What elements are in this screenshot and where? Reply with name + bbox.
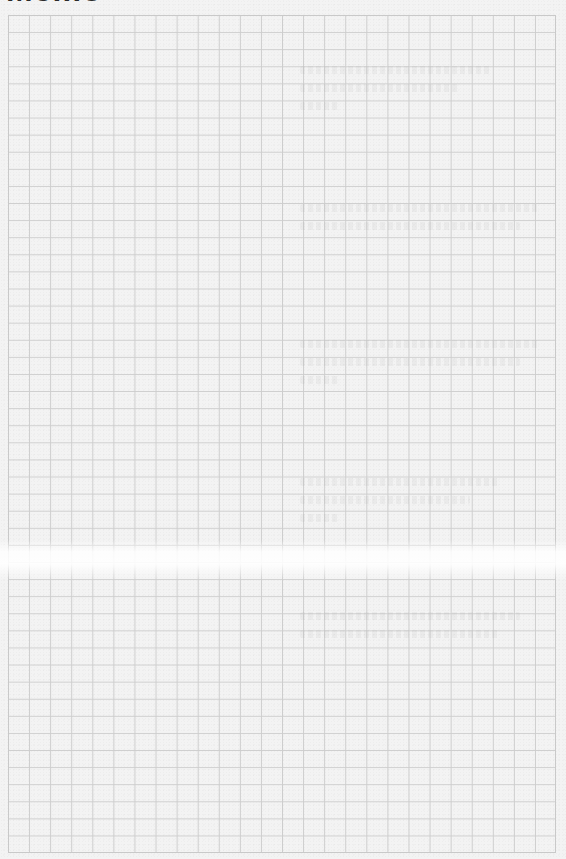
bleed-through-mark	[300, 358, 520, 366]
memo-page: Memo	[0, 0, 566, 859]
bleed-through-mark	[300, 204, 540, 212]
bleed-through-mark	[300, 478, 500, 486]
bleed-through-mark	[300, 630, 500, 638]
memo-title: Memo	[6, 0, 102, 6]
bleed-through-mark	[300, 612, 520, 620]
bleed-through-mark	[300, 514, 340, 522]
bleed-through-mark	[300, 222, 520, 230]
bleed-through-mark	[300, 84, 460, 92]
bleed-through-mark	[300, 66, 490, 74]
bleed-through-mark	[300, 496, 470, 504]
grid-paper	[8, 15, 556, 853]
bleed-through-mark	[300, 376, 340, 384]
bleed-through-mark	[300, 340, 540, 348]
bleed-through-mark	[300, 102, 340, 110]
